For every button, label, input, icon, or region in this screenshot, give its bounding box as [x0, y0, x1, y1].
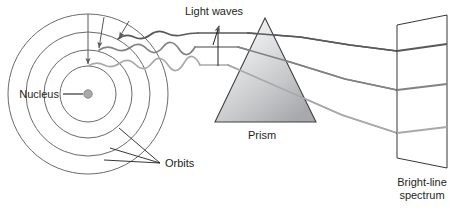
spectrum-label-line1: Bright-line [397, 176, 447, 188]
transition-arrow-mid [99, 17, 104, 48]
orbits-label: Orbits [165, 157, 195, 169]
spectrum-screen-panel [397, 15, 447, 168]
nucleus-dot [84, 90, 92, 98]
nucleus-label: Nucleus [19, 88, 59, 100]
orbits-leader-lines [104, 128, 160, 163]
prism-label: Prism [248, 129, 276, 141]
nucleus-group: Nucleus [19, 88, 92, 100]
diagram-root: Nucleus Lig [0, 0, 460, 209]
ray-mid-wave-segment [99, 42, 195, 54]
orbits-leader-1 [119, 128, 160, 163]
spectrum-label-line2: spectrum [399, 189, 444, 201]
light-waves-label: Light waves [185, 5, 244, 17]
ray-light-wave-segment [88, 56, 200, 70]
ray-dark-wave-segment [118, 31, 198, 39]
spectrum-screen-group: Bright-line spectrum [397, 15, 447, 201]
atom-prism-spectrum-diagram: Nucleus Lig [0, 0, 460, 209]
